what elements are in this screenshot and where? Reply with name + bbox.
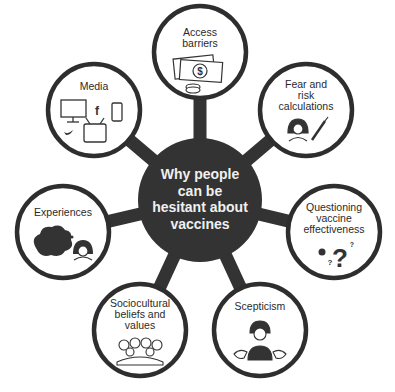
svg-text:?: ? — [350, 241, 354, 248]
node-label-fear-risk: Fear and risk calculations — [266, 79, 346, 112]
label-line: values — [95, 320, 185, 331]
svg-text:?: ? — [332, 243, 348, 273]
tv-icon — [84, 124, 106, 142]
node-label-media: Media — [54, 81, 134, 92]
label-line: Scepticism — [220, 301, 300, 312]
label-line: barriers — [160, 38, 240, 49]
svg-text:$: $ — [197, 66, 203, 77]
center-title-line: can be — [140, 183, 260, 200]
node-label-access-barriers: Access barriers — [160, 27, 240, 49]
center-title-line: vaccines — [140, 216, 260, 233]
svg-text:?: ? — [328, 258, 333, 267]
node-circle-access-barriers — [154, 6, 246, 98]
label-line: calculations — [266, 101, 346, 112]
node-label-questioning: Questioning vaccine effectiveness — [289, 202, 379, 235]
node-label-sociocultural: Sociocultural beliefs and values — [95, 298, 185, 331]
vaccine-hesitancy-diagram: $ f — [0, 0, 395, 392]
center-title-line: hesitant about — [140, 199, 260, 216]
node-label-scepticism: Scepticism — [220, 301, 300, 312]
label-line: Media — [54, 81, 134, 92]
center-title-line: Why people — [140, 166, 260, 183]
label-line: effectiveness — [289, 224, 379, 235]
phone-icon — [112, 103, 122, 121]
node-label-experiences: Experiences — [18, 207, 108, 218]
monitor-icon — [61, 100, 86, 117]
label-line: Experiences — [18, 207, 108, 218]
center-title: Why people can be hesitant about vaccine… — [140, 166, 260, 232]
